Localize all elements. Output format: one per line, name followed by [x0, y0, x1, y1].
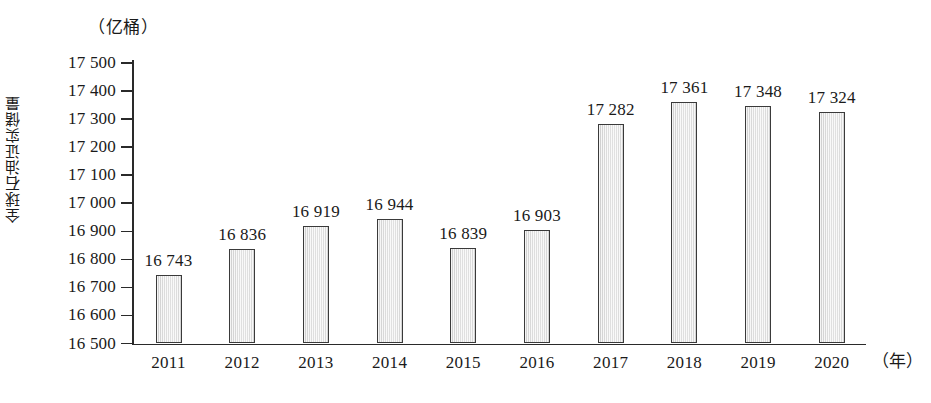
y-tick-label: 16 600 — [68, 304, 116, 325]
x-tick-label: 2011 — [151, 352, 186, 374]
bar — [745, 106, 771, 344]
bar — [377, 219, 403, 344]
y-tick-mark — [121, 287, 132, 289]
bar — [156, 275, 182, 343]
bar-value-label: 17 348 — [734, 82, 782, 102]
x-axis-caption: （年） — [872, 351, 923, 373]
y-tick-label: 16 500 — [68, 333, 116, 354]
y-tick-label: 17 500 — [68, 52, 116, 73]
y-tick-mark — [121, 231, 132, 233]
x-tick-label: 2013 — [298, 352, 333, 374]
x-tick-label: 2015 — [446, 352, 481, 374]
x-tick-label: 2016 — [519, 352, 554, 374]
y-axis-line — [132, 60, 134, 345]
bar — [598, 124, 624, 343]
y-tick-label: 17 300 — [68, 108, 116, 129]
y-tick-mark — [121, 174, 132, 176]
x-axis-line — [132, 344, 866, 346]
y-tick-mark — [121, 343, 132, 345]
bar-value-label: 17 361 — [660, 78, 708, 98]
bar — [524, 230, 550, 343]
bar-value-label: 16 903 — [513, 206, 561, 226]
y-tick-label: 16 700 — [68, 276, 116, 297]
y-tick-mark — [121, 118, 132, 120]
x-tick-label: 2020 — [814, 352, 849, 374]
bar — [229, 249, 255, 343]
x-tick-label: 2012 — [225, 352, 260, 374]
y-tick-label: 17 200 — [68, 136, 116, 157]
bar-value-label: 16 743 — [145, 251, 193, 271]
x-tick-label: 2017 — [593, 352, 628, 374]
x-tick-label: 2014 — [372, 352, 407, 374]
x-tick-label: 2018 — [667, 352, 702, 374]
bar-value-label: 17 324 — [808, 88, 856, 108]
bar-value-label: 16 836 — [218, 225, 266, 245]
y-tick-mark — [121, 259, 132, 261]
y-axis-unit-caption: （亿桶） — [88, 13, 158, 38]
y-tick-mark — [121, 146, 132, 148]
y-tick-label: 16 800 — [68, 248, 116, 269]
bar-value-label: 16 944 — [366, 195, 414, 215]
x-tick-label: 2019 — [740, 352, 775, 374]
bar-chart: （亿桶） 全球石油证实储量 17 50017 40017 30017 20017… — [0, 0, 931, 403]
y-tick-label: 17 000 — [68, 192, 116, 213]
y-tick-mark — [121, 62, 132, 64]
bar — [671, 102, 697, 344]
y-tick-mark — [121, 202, 132, 204]
bar-value-label: 16 919 — [292, 202, 340, 222]
y-axis-title: 全球石油证实储量 — [6, 95, 32, 223]
bar — [303, 226, 329, 344]
bar — [450, 248, 476, 343]
y-tick-label: 17 400 — [68, 80, 116, 101]
y-tick-mark — [121, 315, 132, 317]
y-tick-label: 16 900 — [68, 220, 116, 241]
bar-value-label: 17 282 — [587, 100, 635, 120]
bar-value-label: 16 839 — [439, 224, 487, 244]
bar — [819, 112, 845, 343]
y-tick-label: 17 100 — [68, 164, 116, 185]
y-tick-mark — [121, 90, 132, 92]
